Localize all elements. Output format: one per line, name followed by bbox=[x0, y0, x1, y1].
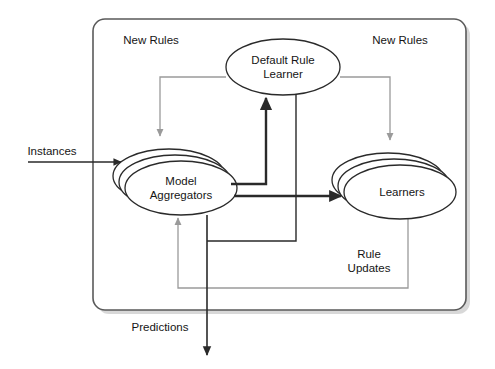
model-aggregators-label-line2: Aggregators bbox=[150, 189, 213, 201]
model-aggregators-stack-front bbox=[125, 161, 237, 215]
label-predictions: Predictions bbox=[132, 321, 189, 333]
learners-label-line1: Learners bbox=[379, 186, 425, 198]
architecture-diagram: Model Aggregators Learners Default Rule … bbox=[0, 0, 495, 369]
default-rule-learner-label-line2: Learner bbox=[263, 68, 303, 80]
label-new-rules-right: New Rules bbox=[372, 34, 428, 46]
default-rule-learner-label-line1: Default Rule bbox=[251, 54, 314, 66]
diagram-canvas: Model Aggregators Learners Default Rule … bbox=[0, 0, 495, 369]
model-aggregators-label-line1: Model bbox=[165, 175, 196, 187]
label-instances: Instances bbox=[27, 145, 76, 157]
label-rule-updates-line2: Updates bbox=[348, 262, 391, 274]
node-default-rule-learner[interactable]: Default Rule Learner bbox=[226, 39, 340, 95]
label-rule-updates-line1: Rule bbox=[357, 248, 381, 260]
label-new-rules-left: New Rules bbox=[123, 34, 179, 46]
default-rule-learner-ellipse bbox=[226, 39, 340, 95]
